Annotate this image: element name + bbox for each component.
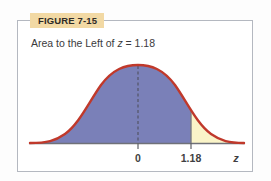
x-axis-variable-label: z — [232, 152, 239, 164]
figure-number-label: FIGURE 7-15 — [38, 16, 97, 26]
caption-prefix-text: Area to the Left of — [31, 37, 117, 49]
caption-suffix-text: = 1.18 — [123, 37, 155, 49]
figure-number-banner: FIGURE 7-15 — [30, 13, 104, 28]
x-tick-label-1.18: 1.18 — [181, 152, 202, 164]
figure-container: FIGURE 7-15 Area to the Left of z = 1.18… — [0, 0, 271, 181]
normal-curve-plot: 0 1.18 z — [17, 52, 253, 172]
x-tick-label-0: 0 — [135, 152, 141, 164]
figure-caption: Area to the Left of z = 1.18 — [31, 37, 155, 50]
